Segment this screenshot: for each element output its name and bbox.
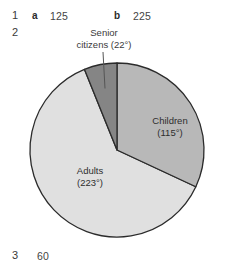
- answer-row-3: 3 60: [0, 248, 235, 262]
- answer-value-3: 60: [37, 249, 49, 263]
- pie-label-children-name: Children: [130, 115, 210, 127]
- pie-chart-svg: [0, 0, 235, 278]
- worksheet-answer-page: 1 a 125 b 225 2 Senior citizens (22°) Ch…: [0, 0, 235, 278]
- pie-label-adults-name: Adults: [50, 165, 130, 177]
- pie-label-children: Children (115°): [130, 115, 210, 138]
- pie-chart: Children (115°) Adults (223°): [0, 0, 235, 278]
- pie-label-adults: Adults (223°): [50, 165, 130, 188]
- question-number-3: 3: [12, 248, 18, 262]
- pie-label-children-value: (115°): [130, 127, 210, 139]
- pie-label-adults-value: (223°): [50, 177, 130, 189]
